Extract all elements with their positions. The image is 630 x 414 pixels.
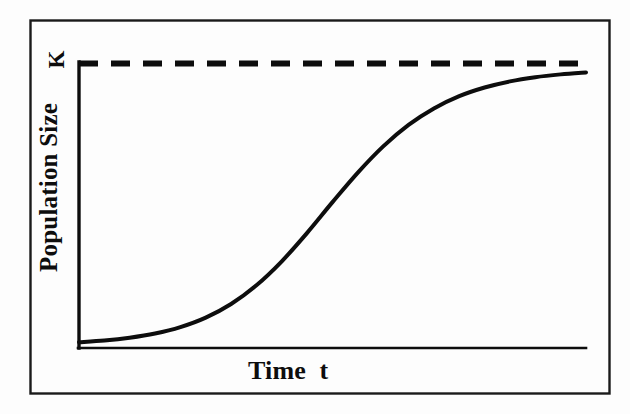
logistic-curve xyxy=(79,72,586,342)
carrying-capacity-label: K xyxy=(45,50,68,68)
logistic-growth-figure: Population Size K Time t xyxy=(0,0,630,414)
chart-canvas xyxy=(0,0,630,414)
x-axis-label: Time t xyxy=(248,358,328,384)
y-axis-label: Population Size xyxy=(36,88,61,288)
